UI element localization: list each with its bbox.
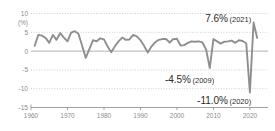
ytick-label-minus5: -5 <box>22 66 28 73</box>
annotation-value-2021: 7.6% <box>205 13 228 24</box>
annotation-year-2020: (2020) <box>230 97 252 106</box>
y-axis-unit-label: (%) <box>18 19 28 27</box>
xtick-label-2020: 2020 <box>243 112 258 119</box>
xtick-label-1990: 1990 <box>133 112 148 119</box>
xtick-label-2010: 2010 <box>206 112 221 119</box>
annotation-value-2009: -4.5% <box>165 74 191 85</box>
xtick-label-1980: 1980 <box>97 112 112 119</box>
annotation-trough-2020: -11.0% (2020) <box>197 95 252 106</box>
ytick-label-10: 10 <box>21 10 29 17</box>
ytick-label-0: 0 <box>24 48 28 55</box>
xtick-label-1960: 1960 <box>24 112 39 119</box>
ytick-label-minus10: -10 <box>19 85 29 92</box>
annotation-value-2020: -11.0% <box>197 95 228 106</box>
y-axis-labels: 10 (%) 5 0 -5 -10 -15 <box>18 10 28 111</box>
data-series-line <box>35 23 258 93</box>
annotation-year-2009: (2009) <box>193 76 215 85</box>
annotation-peak-2021: 7.6% (2021) <box>205 13 251 24</box>
ytick-label-minus15: -15 <box>19 104 29 111</box>
x-axis-labels: 1960 1970 1980 1990 2000 2010 2020 <box>24 112 258 119</box>
ytick-label-5: 5 <box>24 29 28 36</box>
chart-canvas: 10 (%) 5 0 -5 -10 -15 1960 1970 1980 199… <box>0 0 275 131</box>
xtick-label-1970: 1970 <box>60 112 75 119</box>
annotation-year-2021: (2021) <box>230 15 252 24</box>
xtick-label-2000: 2000 <box>170 112 185 119</box>
line-chart: 10 (%) 5 0 -5 -10 -15 1960 1970 1980 199… <box>0 0 275 131</box>
annotation-trough-2009: -4.5% (2009) <box>165 74 215 85</box>
